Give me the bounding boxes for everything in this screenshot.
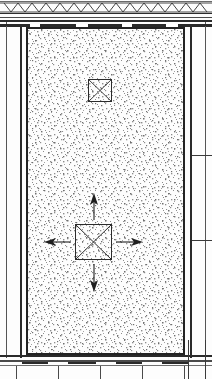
footing-right-edge (188, 340, 189, 379)
footing-dash (68, 362, 96, 364)
arrow-left (44, 238, 71, 246)
direction-arrows (0, 0, 212, 379)
footing-tick (184, 366, 185, 379)
footing-dash (22, 362, 48, 364)
arrow-right (116, 238, 143, 246)
footing-tick (100, 366, 101, 379)
arrow-down (90, 264, 98, 292)
footing-rule-top (0, 355, 212, 357)
arrow-up (90, 193, 98, 220)
drawing-canvas (0, 0, 212, 379)
footing-tick (142, 366, 143, 379)
footing-rule-bottom (0, 365, 212, 366)
footing-right-edge2 (205, 340, 206, 379)
footing-tick (16, 366, 17, 379)
footing-dash (162, 362, 188, 364)
footing-tick (58, 366, 59, 379)
footing-dash (116, 362, 142, 364)
